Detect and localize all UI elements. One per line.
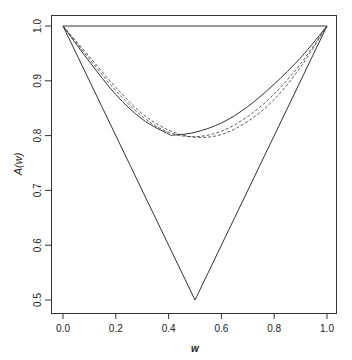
y-tick-label: 1.0 bbox=[32, 19, 43, 33]
x-tick-label: 1.0 bbox=[320, 323, 334, 334]
plot-frame bbox=[52, 16, 337, 314]
y-tick-label: 0.9 bbox=[32, 73, 43, 87]
series-line-1 bbox=[63, 26, 327, 300]
x-tick-label: 0.2 bbox=[109, 323, 123, 334]
x-axis-label: w bbox=[191, 343, 200, 354]
series-line-4 bbox=[63, 26, 327, 137]
x-tick-label: 0.6 bbox=[214, 323, 228, 334]
y-tick-label: 0.6 bbox=[32, 238, 43, 252]
data-lines bbox=[63, 26, 327, 300]
series-line-2 bbox=[63, 26, 327, 136]
x-tick-label: 0.8 bbox=[267, 323, 281, 334]
y-tick-label: 0.8 bbox=[32, 128, 43, 142]
y-tick-label: 0.5 bbox=[32, 293, 43, 307]
x-tick-label: 0.4 bbox=[162, 323, 176, 334]
y-tick-label: 0.7 bbox=[32, 183, 43, 197]
series-line-3 bbox=[63, 26, 327, 137]
y-axis-label: A(w) bbox=[12, 152, 24, 176]
pickands-chart: 0.00.20.40.60.81.00.50.60.70.80.91.0 w A… bbox=[0, 0, 352, 360]
x-tick-label: 0.0 bbox=[56, 323, 70, 334]
axes: 0.00.20.40.60.81.00.50.60.70.80.91.0 bbox=[32, 19, 334, 334]
